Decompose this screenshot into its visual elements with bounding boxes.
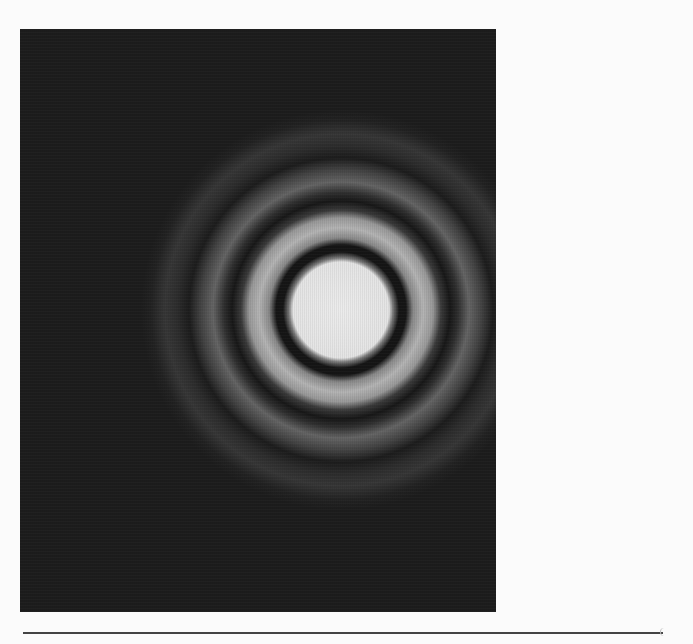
caption-rule <box>23 632 663 634</box>
diffraction-photo <box>20 29 496 612</box>
film-grain <box>20 29 496 612</box>
scan-mark <box>660 628 667 636</box>
